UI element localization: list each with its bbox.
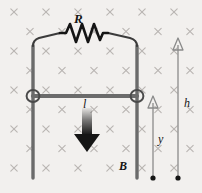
down-arrow-shaft: [82, 108, 92, 135]
top-wire-left-segment: [33, 33, 60, 46]
down-arrow-head: [74, 134, 100, 152]
label-position-y: y: [158, 133, 163, 145]
top-wire-right-segment: [108, 33, 137, 46]
circuit-layer: [0, 0, 202, 193]
h-terminal-dot: [175, 175, 180, 180]
physics-figure-rails-in-magnetic-field: R l B h y: [0, 0, 202, 193]
dimension-line-h: [173, 38, 183, 181]
label-current: l: [83, 98, 86, 110]
dimension-line-y: [148, 96, 158, 181]
label-height-h: h: [184, 97, 190, 109]
resistor-zigzag: [60, 24, 108, 42]
down-arrow: [74, 108, 100, 152]
label-magnetic-field: B: [119, 160, 127, 172]
label-resistor: R: [74, 12, 83, 25]
y-terminal-dot: [150, 175, 155, 180]
